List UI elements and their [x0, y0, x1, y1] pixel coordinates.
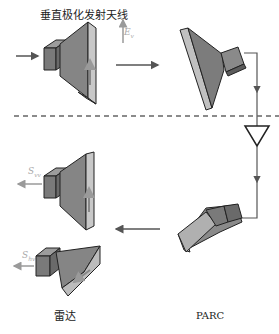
- parc-rx-horn-icon: [180, 28, 246, 110]
- amplifier-icon: [245, 126, 269, 146]
- tx-horn-icon: [44, 22, 96, 104]
- parc-feed-line-top: [244, 53, 257, 92]
- parc-tx-horn-icon: [178, 204, 242, 252]
- diagram-canvas: [0, 0, 279, 334]
- radar-hv-horn-icon: [36, 246, 100, 296]
- radar-vv-horn-icon: [44, 152, 94, 230]
